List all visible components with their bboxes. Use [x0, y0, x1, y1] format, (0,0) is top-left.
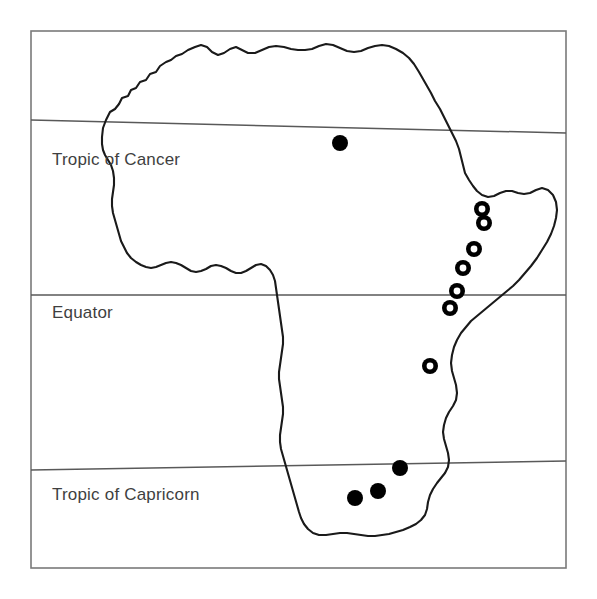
- open-circle-marker-center: [460, 265, 467, 272]
- tropic-of-capricorn-label: Tropic of Capricorn: [52, 485, 200, 504]
- filled-circle-marker: [370, 483, 386, 499]
- filled-circle-marker: [347, 490, 363, 506]
- equator-label: Equator: [52, 303, 113, 322]
- open-circle-marker-center: [447, 305, 454, 312]
- open-circle-marker-center: [481, 220, 488, 227]
- map-canvas: Tropic of Cancer Equator Tropic of Capri…: [0, 0, 597, 599]
- filled-circle-marker: [392, 460, 408, 476]
- open-circle-marker-center: [454, 288, 461, 295]
- filled-circle-marker: [332, 135, 348, 151]
- open-circle-marker-center: [479, 206, 486, 213]
- distribution-map-figure: Tropic of Cancer Equator Tropic of Capri…: [0, 0, 597, 599]
- open-circle-marker-center: [427, 363, 434, 370]
- tropic-of-cancer-label: Tropic of Cancer: [52, 150, 180, 169]
- open-circle-marker-center: [471, 246, 478, 253]
